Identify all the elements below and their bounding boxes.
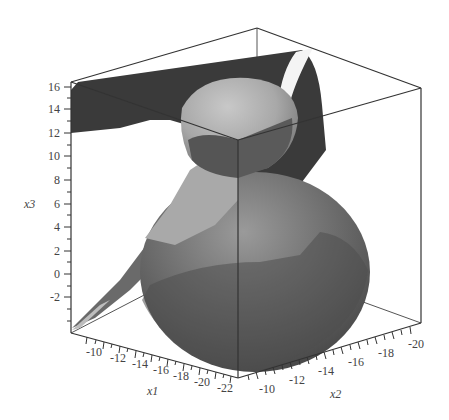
x3-tick-label: 14 — [48, 102, 60, 116]
x3-tick-label: 6 — [54, 197, 60, 211]
x1-tick-label: -22 — [217, 381, 233, 395]
x1-tick-label: -20 — [194, 375, 210, 389]
x3-tick-label: 8 — [54, 173, 60, 187]
x3-axis — [64, 87, 71, 321]
x1-tick-label: -16 — [153, 363, 169, 377]
x2-tick-label: -16 — [348, 355, 364, 369]
x3-axis-title: x3 — [23, 197, 35, 211]
x2-tick-label: -20 — [408, 337, 424, 351]
x3-tick-labels: 16 14 12 10 8 6 4 2 0 -2 — [48, 80, 60, 304]
plot-canvas: 16 14 12 10 8 6 4 2 0 -2 x3 -10 -12 -14 … — [0, 0, 449, 420]
x3-tick-label: 0 — [54, 267, 60, 281]
x1-tick-label: -10 — [86, 345, 102, 359]
x1-tick-label: -12 — [110, 351, 126, 365]
x1-tick-label: -14 — [132, 357, 148, 371]
x2-axis-title: x2 — [329, 387, 341, 401]
x3-tick-label: 12 — [48, 126, 60, 140]
x3-tick-label: 10 — [48, 149, 60, 163]
x3-tick-label: 4 — [54, 220, 60, 234]
x3-tick-label: -2 — [50, 290, 60, 304]
x3-tick-label: 16 — [48, 80, 60, 94]
x2-tick-label: -14 — [318, 364, 334, 378]
x2-tick-label: -12 — [289, 373, 305, 387]
x1-axis-title: x1 — [146, 384, 158, 398]
x3-tick-label: 2 — [54, 244, 60, 258]
x2-tick-label: -10 — [259, 382, 275, 396]
x1-tick-label: -18 — [173, 369, 189, 383]
plot-3d: 16 14 12 10 8 6 4 2 0 -2 x3 -10 -12 -14 … — [0, 0, 449, 420]
x2-tick-label: -18 — [378, 346, 394, 360]
